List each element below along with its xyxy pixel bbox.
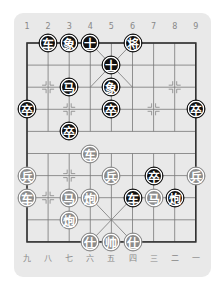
black-piece[interactable]: 卒: [18, 100, 37, 119]
black-piece[interactable]: 卒: [102, 100, 121, 119]
red-piece[interactable]: 仕: [123, 232, 142, 251]
red-piece[interactable]: 兵: [18, 166, 37, 185]
file-label-bottom: 五: [105, 252, 117, 263]
black-piece[interactable]: 士: [81, 34, 100, 53]
file-label-top: 1: [21, 22, 33, 31]
red-piece[interactable]: 兵: [186, 166, 205, 185]
black-piece[interactable]: 车: [123, 188, 142, 207]
black-piece[interactable]: 马: [60, 78, 79, 97]
red-piece[interactable]: 兵: [102, 166, 121, 185]
file-label-bottom: 四: [127, 252, 139, 263]
red-piece[interactable]: 车: [18, 188, 37, 207]
black-piece[interactable]: 卒: [144, 166, 163, 185]
file-label-bottom: 六: [84, 252, 96, 263]
file-label-top: 8: [169, 22, 181, 31]
file-label-top: 6: [127, 22, 139, 31]
file-label-bottom: 三: [148, 252, 160, 263]
red-piece[interactable]: 马: [60, 188, 79, 207]
red-piece[interactable]: 帅: [102, 232, 121, 251]
file-label-top: 9: [190, 22, 202, 31]
black-piece[interactable]: 象: [102, 78, 121, 97]
black-piece[interactable]: 卒: [60, 122, 79, 141]
file-label-top: 7: [148, 22, 160, 31]
red-piece[interactable]: 马: [144, 188, 163, 207]
black-piece[interactable]: 士: [102, 56, 121, 75]
black-piece[interactable]: 卒: [186, 100, 205, 119]
file-label-bottom: 九: [21, 252, 33, 263]
file-label-top: 3: [63, 22, 75, 31]
file-label-bottom: 七: [63, 252, 75, 263]
file-label-top: 2: [42, 22, 54, 31]
file-label-bottom: 二: [169, 252, 181, 263]
black-piece[interactable]: 将: [123, 34, 142, 53]
file-label-bottom: 一: [190, 252, 202, 263]
file-label-top: 5: [105, 22, 117, 31]
black-piece[interactable]: 车: [39, 34, 58, 53]
black-piece[interactable]: 炮: [165, 188, 184, 207]
black-piece[interactable]: 象: [60, 34, 79, 53]
red-piece[interactable]: 炮: [60, 210, 79, 229]
red-piece[interactable]: 车: [81, 144, 100, 163]
file-label-top: 4: [84, 22, 96, 31]
red-piece[interactable]: 仕: [81, 232, 100, 251]
file-label-bottom: 八: [42, 252, 54, 263]
red-piece[interactable]: 炮: [81, 188, 100, 207]
